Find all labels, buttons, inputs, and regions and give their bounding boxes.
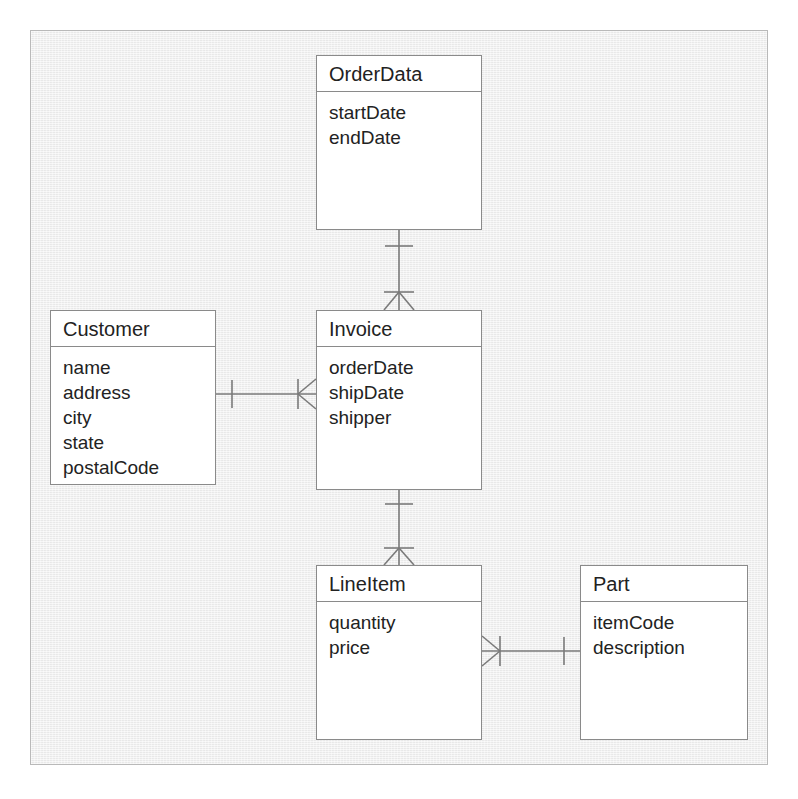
entity-attributes-lineitem: quantity price: [317, 602, 481, 660]
entity-box-lineitem[interactable]: LineItem quantity price: [316, 565, 482, 740]
attribute-row: orderDate: [329, 355, 481, 380]
entity-box-orderdata[interactable]: OrderData startDate endDate: [316, 55, 482, 230]
attribute-row: startDate: [329, 100, 481, 125]
entity-box-part[interactable]: Part itemCode description: [580, 565, 748, 740]
diagram-canvas: OrderData startDate endDate Customer nam…: [0, 0, 798, 799]
entity-title-part: Part: [581, 566, 747, 602]
entity-title-invoice: Invoice: [317, 311, 481, 347]
entity-attributes-part: itemCode description: [581, 602, 747, 660]
attribute-row: price: [329, 635, 481, 660]
attribute-row: shipper: [329, 405, 481, 430]
attribute-row: shipDate: [329, 380, 481, 405]
entity-box-invoice[interactable]: Invoice orderDate shipDate shipper: [316, 310, 482, 490]
attribute-row: city: [63, 405, 215, 430]
entity-title-lineitem: LineItem: [317, 566, 481, 602]
attribute-row: postalCode: [63, 455, 215, 480]
attribute-row: name: [63, 355, 215, 380]
attribute-row: address: [63, 380, 215, 405]
entity-attributes-invoice: orderDate shipDate shipper: [317, 347, 481, 430]
attribute-row: endDate: [329, 125, 481, 150]
attribute-row: description: [593, 635, 747, 660]
attribute-row: state: [63, 430, 215, 455]
entity-box-customer[interactable]: Customer name address city state postalC…: [50, 310, 216, 485]
entity-title-customer: Customer: [51, 311, 215, 347]
attribute-row: itemCode: [593, 610, 747, 635]
attribute-row: quantity: [329, 610, 481, 635]
entity-title-orderdata: OrderData: [317, 56, 481, 92]
entity-attributes-orderdata: startDate endDate: [317, 92, 481, 150]
entity-attributes-customer: name address city state postalCode: [51, 347, 215, 480]
